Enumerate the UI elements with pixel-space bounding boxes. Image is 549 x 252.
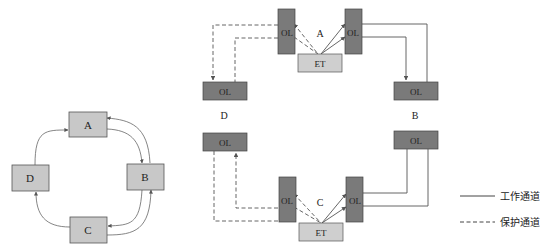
- legend: 工作通道 保护通道: [460, 190, 540, 228]
- node-a-right-label: A: [316, 28, 324, 39]
- left-ring: A B C D: [12, 112, 164, 243]
- legend-working-label: 工作通道: [500, 190, 540, 202]
- diagram-canvas: A B C D OL OL ET A OL OL D B: [0, 0, 549, 252]
- node-a-ol-right-label: OL: [347, 28, 359, 38]
- node-a-ol-left-label: OL: [281, 28, 293, 38]
- node-a-et-label: ET: [315, 59, 326, 69]
- node-d-ol-top-label: OL: [219, 87, 231, 97]
- right-network: OL OL ET A OL OL D B OL OL OL OL ET: [203, 9, 438, 241]
- node-d-right-label: D: [220, 110, 227, 121]
- node-b-right-label: B: [412, 110, 419, 121]
- node-c-label: C: [84, 224, 91, 236]
- node-b-ol-top-label: OL: [410, 87, 422, 97]
- node-c-ol-right-label: OL: [349, 196, 361, 206]
- node-d-label: D: [26, 172, 34, 184]
- node-c-et-label: ET: [316, 228, 327, 238]
- node-c-ol-left-label: OL: [281, 196, 293, 206]
- node-b-ol-bottom-label: OL: [410, 136, 422, 146]
- node-a-label: A: [84, 119, 92, 131]
- legend-protection-label: 保护通道: [500, 216, 540, 228]
- node-d-ol-bottom-label: OL: [219, 138, 231, 148]
- node-b-label: B: [141, 171, 148, 183]
- node-c-right-label: C: [317, 197, 324, 208]
